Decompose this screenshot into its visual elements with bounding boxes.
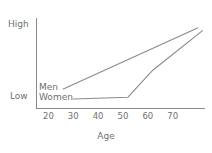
x-axis-title: Age <box>0 131 212 141</box>
x-tick-label-60: 60 <box>138 112 158 121</box>
series-line-men <box>63 28 197 89</box>
x-tick-label-50: 50 <box>113 112 133 121</box>
chart-container: High Low Men Women 20 30 40 50 60 70 Age <box>0 0 212 153</box>
series-line-women <box>73 31 202 99</box>
x-tick-label-70: 70 <box>163 112 183 121</box>
x-tick-label-30: 30 <box>63 112 83 121</box>
x-tick-label-40: 40 <box>88 112 108 121</box>
x-tick-label-20: 20 <box>38 112 58 121</box>
series-label-men: Men <box>39 82 58 92</box>
series-label-women: Women <box>39 92 73 102</box>
y-axis-label-high: High <box>8 19 29 29</box>
y-axis-label-low: Low <box>10 91 28 101</box>
